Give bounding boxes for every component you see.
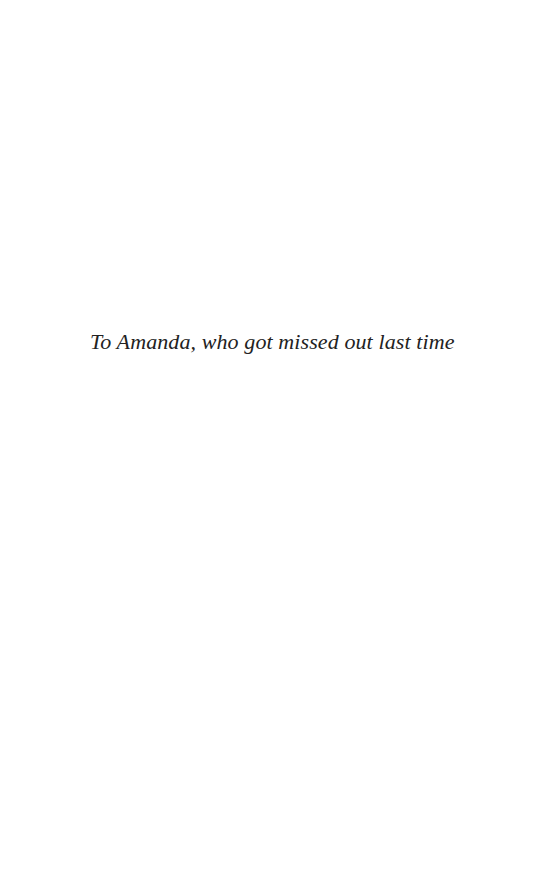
dedication-text: To Amanda, who got missed out last time — [90, 329, 455, 355]
book-page: To Amanda, who got missed out last time — [0, 0, 543, 880]
